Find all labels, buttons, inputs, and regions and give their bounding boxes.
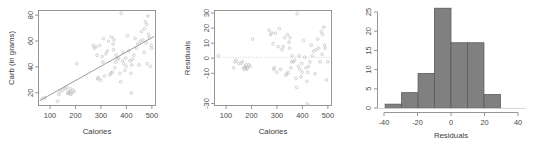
scatter-y-axis-ticks (35, 15, 39, 93)
residual-xtick-500: 500 (322, 111, 334, 120)
scatter-point (141, 38, 144, 41)
residual-point (307, 71, 310, 74)
scatter-point (114, 61, 117, 64)
histogram-x-axis-title: Residuals (434, 131, 468, 140)
scatter-xtick-100: 100 (44, 111, 56, 120)
residual-point (278, 27, 281, 30)
scatter-point (121, 59, 124, 62)
scatter-point (129, 72, 132, 75)
hist-ytick-25: 25 (364, 8, 373, 16)
scatter-point (113, 66, 116, 69)
scatter-point (124, 69, 127, 72)
histogram-bar (451, 43, 467, 108)
residual-point (311, 54, 314, 57)
scatter-point (122, 62, 125, 65)
scatter-point (126, 34, 129, 37)
residual-point (310, 44, 313, 47)
scatter-xtick-400: 400 (120, 111, 132, 120)
residual-point (297, 65, 300, 68)
residual-ytick-neg10: -10 (202, 68, 211, 79)
scatter-point (102, 37, 105, 40)
residual-point (289, 36, 292, 39)
scatter-point (119, 80, 122, 83)
histogram-bar (484, 95, 500, 108)
residual-point (298, 54, 301, 57)
scatter-x-tick-labels: 100 200 300 400 500 (44, 111, 158, 120)
residual-x-axis-title: Calories (259, 127, 288, 136)
residual-point (296, 12, 299, 15)
residual-point (306, 103, 309, 106)
scatter-point (138, 64, 141, 67)
residual-xtick-200: 200 (245, 111, 257, 120)
scatter-ytick-60: 60 (26, 37, 35, 45)
scatter-point (143, 27, 146, 30)
residual-x-axis-ticks (226, 106, 328, 110)
scatter-point (105, 52, 108, 55)
scatter-x-axis-ticks (50, 106, 152, 110)
scatter-xtick-500: 500 (146, 111, 158, 120)
residual-point (268, 29, 271, 32)
residual-point (272, 42, 275, 45)
residual-point (281, 48, 284, 51)
residual-xtick-300: 300 (271, 111, 283, 120)
scatter-point (149, 65, 152, 68)
scatter-x-axis-title: Calories (83, 127, 112, 136)
residual-point (279, 68, 282, 71)
scatter-point (120, 12, 123, 15)
residual-ytick-neg30: -30 (202, 98, 211, 109)
residual-point (291, 54, 294, 57)
residual-ytick-10: 10 (202, 39, 211, 47)
scatter-point (140, 30, 143, 33)
scatter-point (99, 79, 102, 82)
histogram-x-tick-labels: -40 -20 0 20 40 (379, 118, 522, 127)
residual-point (275, 71, 278, 74)
histogram-bar (385, 104, 401, 108)
scatter-point (125, 65, 128, 68)
scatter-point (119, 72, 122, 75)
histogram-y-axis (374, 12, 378, 108)
residual-point (324, 47, 327, 50)
residual-y-axis-title: Residuals (183, 41, 192, 75)
scatter-plot-svg: 80 60 40 20 100 200 300 400 500 Calories… (0, 0, 172, 144)
residual-point (323, 26, 326, 29)
residual-point (283, 36, 286, 39)
scatter-y-tick-labels: 80 60 40 20 (26, 11, 35, 97)
panel-residuals-histogram: 25 20 15 10 5 0 -40 -20 0 20 (348, 0, 533, 144)
scatter-point (112, 48, 115, 51)
residual-xtick-400: 400 (296, 111, 308, 120)
residual-point (307, 65, 310, 68)
scatter-point (134, 37, 137, 40)
histogram-x-axis (384, 113, 518, 117)
scatter-point (113, 38, 116, 41)
residual-point (319, 60, 322, 63)
histogram-svg: 25 20 15 10 5 0 -40 -20 0 20 (348, 0, 533, 144)
residual-point (217, 54, 220, 57)
hist-xtick-20: 20 (480, 118, 488, 127)
histogram-bar (435, 8, 451, 108)
scatter-point (98, 44, 101, 47)
panel-residuals-vs-calories: 30 20 10 0 -10 -30 100 200 300 400 500 (170, 0, 348, 144)
hist-ytick-5: 5 (364, 87, 373, 91)
scatter-point (96, 54, 99, 57)
scatter-point (131, 58, 134, 61)
hist-xtick-neg20: -20 (412, 118, 423, 127)
scatter-xtick-200: 200 (69, 111, 81, 120)
residual-point (321, 53, 324, 56)
residual-point (277, 45, 280, 48)
hist-xtick-0: 0 (449, 118, 453, 127)
scatter-point (102, 61, 105, 64)
scatter-ytick-80: 80 (26, 11, 35, 19)
residual-ytick-0: 0 (202, 56, 211, 60)
residual-point (289, 66, 292, 69)
residual-point (309, 60, 312, 63)
residual-point (316, 38, 319, 41)
scatter-y-axis-title: Carb (in grams) (7, 31, 16, 86)
scatter-point (56, 100, 59, 103)
residual-ytick-30: 30 (202, 9, 211, 17)
hist-ytick-10: 10 (364, 65, 373, 73)
residual-plot-frame (215, 11, 332, 106)
scatter-point (144, 20, 147, 23)
scatter-point (147, 33, 150, 36)
histogram-bar (402, 93, 418, 108)
scatter-point (145, 23, 148, 26)
